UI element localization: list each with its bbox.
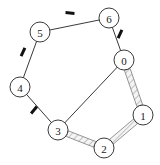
graph-edge: [112, 27, 120, 50]
graph-edge: [65, 67, 117, 122]
graph-diagram: 0123456: [0, 0, 160, 165]
graph-node-5: 5: [30, 22, 50, 42]
graph-node-label: 5: [37, 27, 43, 39]
graph-node-label: 2: [101, 143, 107, 155]
graph-node-4: 4: [10, 77, 30, 97]
graph-edge: [110, 119, 138, 144]
graph-edge: [23, 41, 36, 77]
graph-node-0: 0: [114, 50, 134, 70]
edge-tick-mark: [31, 107, 37, 114]
graph-node-label: 3: [55, 125, 61, 137]
graph-edge: [124, 68, 142, 106]
graph-node-label: 4: [17, 82, 23, 94]
graph-node-6: 6: [99, 8, 119, 28]
graph-node-1: 1: [133, 105, 153, 125]
graph-node-3: 3: [48, 120, 68, 140]
edge-tick-mark: [118, 30, 122, 38]
edge-tick-mark: [66, 13, 75, 14]
graph-edge: [66, 131, 96, 147]
graph-node-label: 1: [140, 110, 146, 122]
graph-edge: [50, 20, 99, 30]
graph-node-2: 2: [94, 138, 114, 158]
edge-tick-mark: [21, 48, 25, 56]
graph-node-label: 6: [106, 13, 112, 25]
graph-node-label: 0: [121, 55, 127, 67]
graph-edge: [27, 94, 52, 122]
graph-canvas: 0123456: [0, 0, 160, 165]
